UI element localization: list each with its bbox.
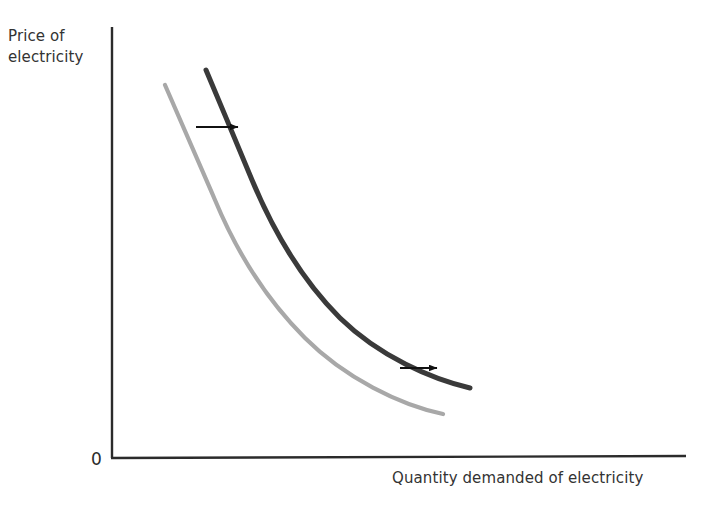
x-axis-line: [111, 456, 686, 458]
y-axis-label: Price of electricity: [8, 26, 108, 68]
chart-axes: [111, 27, 686, 458]
demand-curves: [165, 70, 470, 414]
demand-curve-figure: [0, 0, 703, 512]
origin-label: 0: [91, 449, 102, 469]
shifted-demand-curve: [206, 70, 470, 388]
shift-arrows: [196, 127, 437, 368]
x-axis-label: Quantity demanded of electricity: [392, 468, 643, 489]
